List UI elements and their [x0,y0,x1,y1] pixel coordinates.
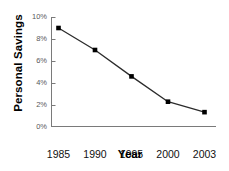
y-tick-label-6: 6% [21,57,47,65]
data-point-1990 [93,48,98,53]
data-point-2003 [202,110,207,115]
y-tick-label-10: 10% [21,13,47,21]
line-chart-svg [51,17,216,127]
data-point-2000 [166,99,171,104]
data-point-1995 [129,74,134,79]
chart-figure: Personal Savings 10% 8% 6% 4% 2% 0% [0,0,229,171]
y-tick-label-4: 4% [21,79,47,87]
data-line-personal-savings [59,28,205,112]
axes-group [52,17,217,127]
x-axis-title: Year [51,148,209,160]
plot-area: 1985 1990 1995 2000 2003 [51,17,216,127]
y-tick-label-8: 8% [21,35,47,43]
data-markers-group [56,26,207,115]
y-tick-label-2: 2% [21,101,47,109]
data-point-1985 [56,26,61,31]
y-tick-label-0: 0% [21,123,47,131]
